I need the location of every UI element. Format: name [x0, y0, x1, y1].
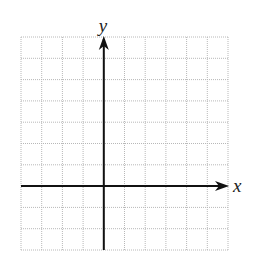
grid-lines	[21, 37, 228, 250]
y-axis-label: y	[97, 15, 108, 36]
x-axis-label: x	[232, 175, 242, 196]
coordinate-plane: x y	[0, 0, 254, 271]
